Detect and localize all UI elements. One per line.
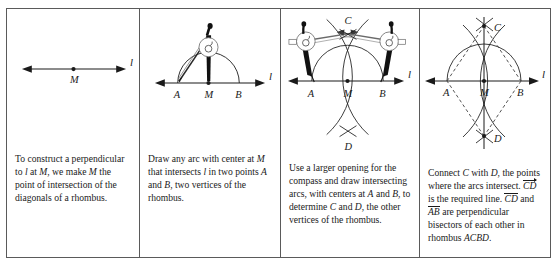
label-line-l: l [408, 68, 411, 80]
arrowhead-right-icon [394, 77, 404, 84]
caption-4-cd-line-notation: CD [523, 181, 536, 191]
caption-3-line-5e: , the [362, 201, 379, 212]
panel-step-1: M l To construct a perpendicular to l at… [7, 9, 140, 257]
caption-step-1: To construct a perpendicular to l at M, … [7, 152, 139, 204]
label-point-m: M [479, 87, 490, 98]
caption-3-line-7: rhombus. [346, 214, 382, 225]
point-m-dot [71, 67, 75, 71]
caption-4-line-7b: . [489, 232, 491, 243]
caption-3-line-4c: and [373, 188, 392, 199]
label-point-m: M [204, 89, 215, 100]
caption-4-ab-segment-notation: AB [428, 206, 440, 217]
caption-2-line-2b: that intersects [148, 166, 203, 177]
caption-4-line-4a: line. [485, 193, 504, 204]
caption-3-line-4e: , to [398, 188, 410, 199]
caption-3-line-5a: determine [289, 201, 330, 212]
caption-2-line-3e: , two [170, 179, 189, 190]
caption-4-d: D [491, 167, 498, 178]
panel-step-3: A M B C D l Use a larger opening for the… [281, 9, 420, 257]
caption-4-rhombus-name: ACBD [464, 232, 489, 243]
arrowhead-right-icon [255, 79, 265, 86]
label-line-l: l [130, 56, 133, 68]
label-point-b: B [235, 89, 242, 100]
label-point-c: C [494, 22, 502, 33]
caption-1-text-c: , we make [47, 166, 89, 177]
caption-1-text-to: to [15, 166, 25, 177]
panel-1-diagram: M l [7, 9, 139, 149]
caption-4-line-3c: is the required [428, 193, 483, 204]
caption-1-text-b: at [28, 166, 40, 177]
caption-3-line-4a: centers at [329, 188, 368, 199]
label-point-b: B [379, 88, 386, 99]
compass-hinge-ring [205, 45, 212, 52]
label-point-m: M [69, 74, 80, 85]
compass-icon [178, 23, 218, 83]
caption-1-text-e: point of intersection of the [15, 179, 117, 190]
caption-2-line-1: Draw any arc with center at [148, 153, 254, 164]
caption-4-line-4c: and [518, 193, 534, 204]
panel-step-2: A M B l Draw any arc with center at M th… [140, 9, 281, 257]
caption-3-d: D [355, 201, 362, 212]
point-m-dot [482, 79, 486, 83]
point-d-dot [482, 134, 486, 138]
rhombus-edge-cb [484, 26, 521, 81]
panel-2-diagram: A M B l [140, 9, 280, 149]
caption-1-text-d: the [97, 166, 111, 177]
arrowhead-left-icon [425, 77, 435, 84]
label-point-b: B [517, 87, 524, 98]
caption-step-4: Connect C with D, the points where the a… [420, 166, 550, 245]
arrowhead-left-icon [22, 65, 32, 72]
caption-4-cd-segment-notation: CD [504, 193, 517, 204]
caption-4-line-3a: intersect. [486, 180, 523, 191]
panel-3-diagram: A M B C D l [281, 9, 419, 159]
caption-4-line-4e: are [440, 206, 454, 217]
caption-1-m-second: M [89, 166, 97, 177]
caption-step-2: Draw any arc with center at M that inter… [140, 152, 280, 204]
label-point-a: A [173, 89, 181, 100]
panel-step-4: A M B C D l Connect C with D, the points… [420, 9, 550, 257]
label-point-m: M [343, 88, 354, 99]
caption-2-m: M [257, 153, 265, 164]
caption-3-line-5c: and [336, 201, 355, 212]
caption-3-line-2: compass and draw [289, 175, 360, 186]
caption-4-line-1a: Connect [428, 167, 462, 178]
caption-1-text-f: diagonals of a rhombus. [15, 192, 107, 203]
compass-right-handle-cap [389, 21, 394, 27]
label-line-l: l [269, 70, 272, 82]
compass-right-adjuster [398, 39, 405, 44]
panel-4-diagram: A M B C D l [420, 9, 550, 164]
compass-left-adjuster [289, 39, 296, 44]
arrowhead-right-icon [529, 77, 539, 84]
caption-step-3: Use a larger opening for the compass and… [281, 161, 419, 226]
compass-pencil-tip [178, 76, 182, 82]
caption-1-text-a: To construct a perpendicular [15, 153, 124, 164]
compass-right-hinge-ring [386, 40, 393, 47]
caption-2-line-3c: and [148, 179, 164, 190]
caption-3-line-1: Use a larger opening for the [289, 162, 396, 173]
rhombus-edge-bd [484, 81, 521, 136]
label-line-l: l [542, 68, 545, 80]
arrowhead-left-icon [155, 79, 165, 86]
caption-2-line-2d: in two [206, 166, 233, 177]
point-m-dot [206, 81, 210, 85]
point-m-dot [345, 79, 349, 83]
label-point-a: A [307, 88, 315, 99]
arrowhead-left-icon [288, 77, 298, 84]
point-c-dot [482, 24, 486, 28]
construction-figure: M l To construct a perpendicular to l at… [6, 8, 551, 258]
caption-2-a: A [261, 166, 267, 177]
label-point-d: D [493, 133, 502, 144]
rhombus-edge-da [447, 81, 484, 136]
caption-4-line-1e: , the [498, 167, 515, 178]
compass-handle-cap [208, 23, 213, 29]
compass-left-handle-cap [301, 21, 306, 27]
label-point-d: D [344, 141, 353, 152]
compass-left-hinge-ring [303, 40, 310, 47]
arrowhead-right-icon [116, 65, 126, 72]
caption-2-line-3a: points [235, 166, 261, 177]
caption-4-line-1c: with [469, 167, 491, 178]
label-point-a: A [442, 87, 450, 98]
label-point-c: C [345, 15, 353, 26]
rhombus-edge-ac [447, 26, 484, 81]
